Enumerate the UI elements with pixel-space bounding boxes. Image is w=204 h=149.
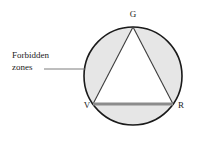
forbidden-zones-caption: Forbidden zones [12,49,64,73]
diagram-canvas: G V R [0,0,204,149]
vertex-label-g: G [130,9,137,19]
vertex-label-v: V [84,100,91,110]
forbidden-zones-diagram: G V R Forbidden zones [0,0,204,149]
caption-line-2: zones [12,61,64,73]
vertex-label-r: R [178,100,184,110]
caption-line-1: Forbidden [12,49,64,61]
